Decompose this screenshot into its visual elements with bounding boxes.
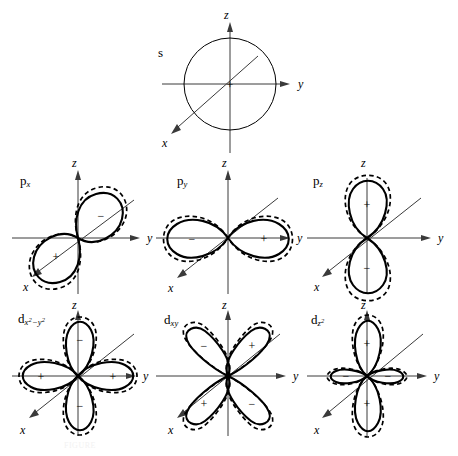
lobe-outline-solid-upper-left [186,328,229,376]
orbital-diagram-pz: + − y z x [305,158,457,298]
axis-label-z: z [360,298,366,312]
axis-label-z: z [221,156,227,170]
lobe-sign-up: − [77,333,84,347]
orbital-panel-py: − + y z x py [152,158,317,298]
orbital-label-px-sub: x [27,179,31,189]
axis-label-z: z [71,156,77,170]
orbital-panel-dx2y2: + + − − y z x dx2−y2 [6,300,166,440]
orbital-label-s-main: s [158,45,163,60]
orbital-label-dxy-sub: xy [171,318,179,328]
lobe-outline-solid-lower-left [186,376,229,424]
orbital-label-dx2y2-main: d [18,311,25,326]
axis-y-arrowhead [276,373,286,379]
lobe-sign-up: + [364,337,371,351]
orbital-diagram-s: + y z x [140,8,320,158]
lobe-sign-down: + [364,397,371,411]
orbital-diagram-dz2: + + − − y z x [305,300,457,440]
lobe-outline-dashed-negative [164,216,229,261]
lobe-sign-left: − [343,369,350,383]
lobe-sign-positive: + [261,232,268,246]
orbital-label-s: s [158,46,163,59]
axis-label-y: y [142,369,149,383]
axis-label-z: z [360,156,366,170]
lobe-sign-lower-left: + [201,397,208,411]
orbital-panel-s: + y z x s [140,8,320,158]
lobe-sign-center: + [227,78,234,92]
lobe-sign-positive: + [53,250,60,264]
axis-label-y: y [296,231,303,245]
lobe-sign-upper-left: − [201,339,208,353]
figure-caption: FIGURE [64,441,96,450]
orbital-label-pz: pz [313,174,323,189]
axis-label-x: x [22,280,29,294]
axis-label-z: z [223,8,229,22]
lobe-sign-right: − [385,369,392,383]
orbital-label-py: py [177,174,187,189]
orbital-label-dx2y2-sub: x2−y2 [25,317,46,327]
lobe-sign-positive: + [364,198,371,212]
lobe-sign-down: − [77,399,84,413]
axis-x [329,198,421,271]
lobe-sign-negative: − [98,209,105,223]
axis-label-y: y [292,369,299,383]
axis-label-y: y [297,77,304,91]
axis-label-x: x [313,423,320,437]
axis-x [178,56,258,127]
orbital-label-dz2-main: d [311,312,318,327]
lobe-sign-upper-right: + [249,339,256,353]
axis-label-x: x [19,423,26,437]
axis-y-arrowhead [417,373,427,379]
orbital-label-px: px [20,174,30,189]
orbital-shapes-figure: + y z x s − + y z x [0,0,458,456]
orbital-label-dz2: dz2 [311,313,324,328]
lobe-sign-negative: − [189,232,196,246]
axis-z-arrowhead [225,170,231,180]
axis-y-arrowhead [280,81,290,87]
orbital-label-pz-sub: z [320,179,324,189]
axis-label-x: x [161,136,168,150]
orbital-label-dx2y2: dx2−y2 [18,312,45,327]
axis-label-x: x [313,280,320,294]
orbital-panel-dxy: − + + − y z x dxy [152,300,317,440]
axis-y-arrowhead [421,235,431,241]
orbital-label-dz2-sub: z2 [318,318,325,328]
axis-label-y: y [437,231,444,245]
lobe-sign-right: + [110,370,117,384]
lobe-outline-solid-positive [228,220,289,258]
lobe-sign-left: + [38,370,45,384]
orbital-panel-dz2: + + − − y z x dz2 [305,300,457,440]
axis-y-arrowhead [130,235,140,241]
orbital-panel-pz: + − y z x pz [305,158,457,298]
axis-z-arrowhead [75,170,81,180]
orbital-label-py-sub: y [184,179,188,189]
axis-y-arrowhead [126,373,136,379]
axis-z-arrowhead [227,22,233,32]
axis-label-x: x [167,423,174,437]
axis-label-x: x [167,281,174,295]
axis-x [36,334,134,412]
axis-label-y: y [433,369,440,383]
axis-label-z: z [221,298,227,312]
lobe-sign-negative: − [364,261,371,275]
lobe-outline-solid-negative [167,220,228,258]
lobe-sign-lower-right: − [249,397,256,411]
orbital-panel-px: − + y z x px [6,158,166,298]
orbital-label-dxy: dxy [164,313,178,328]
axis-label-z: z [71,298,77,312]
